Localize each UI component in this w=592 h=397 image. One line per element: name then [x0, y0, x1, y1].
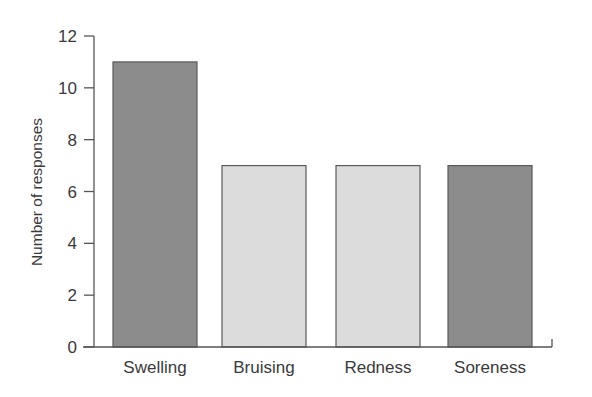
x-category-label: Bruising	[233, 358, 294, 377]
bar-soreness	[448, 166, 532, 347]
y-tick-label: 12	[58, 27, 77, 46]
y-tick-label: 2	[68, 286, 77, 305]
y-axis-ticks: 024681012	[58, 27, 94, 357]
bar-chart: 024681012 SwellingBruisingRednessSorenes…	[0, 0, 592, 397]
x-category-label: Swelling	[123, 358, 186, 377]
bar-bruising	[222, 166, 306, 347]
y-tick-label: 0	[68, 338, 77, 357]
x-axis-labels: SwellingBruisingRednessSoreness	[123, 358, 526, 377]
y-tick-label: 8	[68, 131, 77, 150]
y-axis-title: Number of responses	[28, 118, 45, 266]
y-tick-label: 6	[68, 183, 77, 202]
bars	[113, 62, 532, 347]
x-category-label: Soreness	[454, 358, 526, 377]
y-tick-label: 4	[68, 234, 77, 253]
bar-redness	[336, 166, 420, 347]
bar-swelling	[113, 62, 197, 347]
x-category-label: Redness	[344, 358, 411, 377]
y-tick-label: 10	[58, 79, 77, 98]
